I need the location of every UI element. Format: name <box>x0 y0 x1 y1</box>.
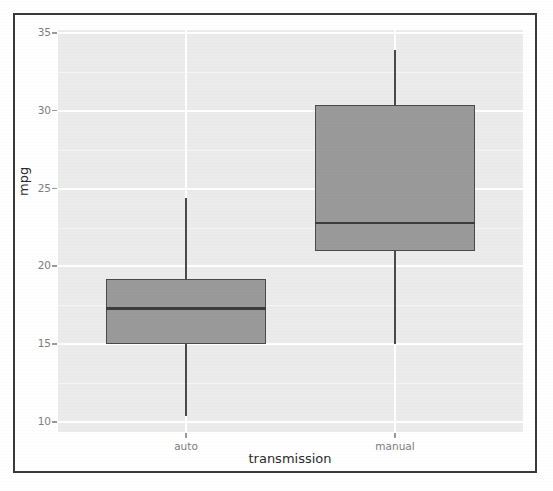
y-tick-mark <box>52 188 57 190</box>
y-tick-label: 10 <box>29 415 51 427</box>
median-manual <box>315 222 475 225</box>
x-tick-label-auto: auto <box>174 440 198 452</box>
y-tick-mark <box>52 265 57 267</box>
box-manual <box>315 105 475 251</box>
gridline-major-y <box>58 32 523 34</box>
y-tick-label: 30 <box>29 104 51 116</box>
x-tick-mark <box>185 433 187 438</box>
x-tick-mark <box>394 433 396 438</box>
y-tick-label: 15 <box>29 337 51 349</box>
whisker-upper-auto <box>185 198 187 279</box>
y-tick-label: 25 <box>29 182 51 194</box>
y-tick-mark <box>52 110 57 112</box>
y-tick-mark <box>52 421 57 423</box>
x-axis-title: transmission <box>248 451 331 466</box>
y-tick-mark <box>52 32 57 34</box>
boxplot-figure: 353025201510 mpg automanual transmission <box>0 0 553 491</box>
plot-panel <box>58 30 523 432</box>
box-auto <box>106 279 266 344</box>
whisker-upper-manual <box>394 50 396 104</box>
median-auto <box>106 307 266 310</box>
gridline-major-y <box>58 421 523 423</box>
y-tick-label: 20 <box>29 259 51 271</box>
gridline-minor-y <box>58 383 523 384</box>
x-tick-label-manual: manual <box>375 440 414 452</box>
gridline-major-y <box>58 265 523 267</box>
y-tick-mark <box>52 343 57 345</box>
whisker-lower-auto <box>185 344 187 416</box>
y-axis-title: mpg <box>16 167 31 196</box>
whisker-lower-manual <box>394 251 396 344</box>
y-tick-label: 35 <box>29 26 51 38</box>
gridline-minor-y <box>58 72 523 73</box>
